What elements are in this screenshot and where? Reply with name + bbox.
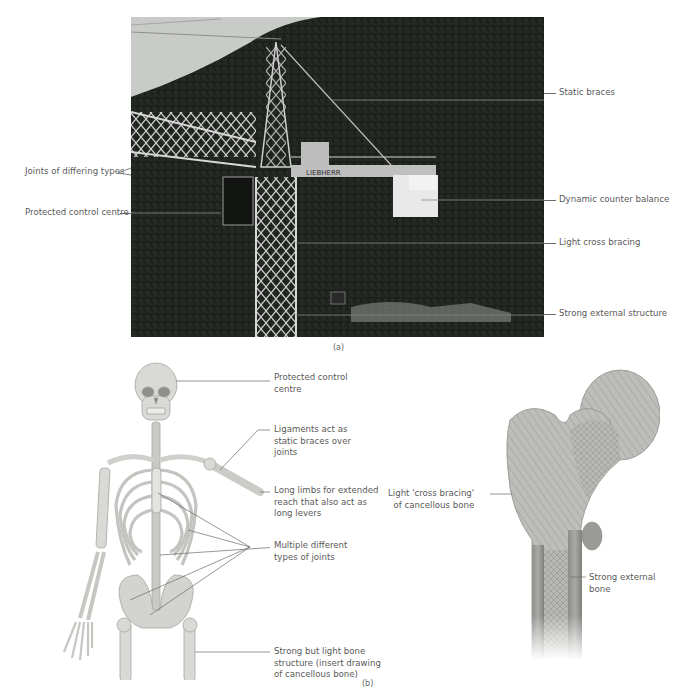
label-skeleton-bone-structure: Strong but light bone structure (insert … — [274, 646, 381, 681]
leader-external — [544, 314, 556, 315]
label-skeleton-limbs: Long limbs for extended reach that also … — [274, 485, 378, 520]
label-static-braces: Static braces — [559, 87, 615, 99]
label-femur-cancellous: Light 'cross bracing' of cancellous bone — [388, 488, 474, 511]
label-skeleton-ligaments: Ligaments act as static braces over join… — [274, 424, 351, 459]
leader-control — [120, 213, 132, 214]
leader-counter — [544, 200, 556, 201]
leader-cross — [544, 243, 556, 244]
crane-photo-illustration: LIEBHERR — [131, 17, 544, 337]
crane-photo: LIEBHERR — [131, 17, 544, 337]
label-skeleton-control-centre: Protected control centre — [274, 372, 348, 395]
leader-static — [544, 93, 556, 94]
skeleton-illustration — [20, 360, 270, 680]
label-light-cross-bracing: Light cross bracing — [559, 237, 640, 249]
label-skeleton-joints: Multiple different types of joints — [274, 540, 347, 563]
label-joints-of-differing-types: Joints of differing types — [25, 166, 125, 178]
label-femur-external-bone: Strong external bone — [589, 572, 655, 595]
label-protected-control-centre: Protected control centre — [25, 207, 129, 219]
label-strong-external-structure: Strong external structure — [559, 308, 667, 320]
caption-a: (a) — [333, 343, 344, 352]
caption-b: (b) — [362, 679, 373, 688]
femur-illustration — [470, 360, 660, 660]
leader-joints — [118, 163, 134, 177]
crane-brand: LIEBHERR — [306, 169, 341, 177]
label-dynamic-counter-balance: Dynamic counter balance — [559, 194, 669, 206]
